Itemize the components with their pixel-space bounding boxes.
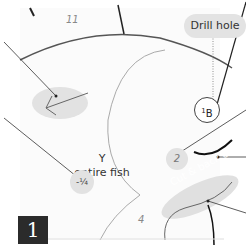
part-number-middle: 2 — [166, 148, 188, 170]
center-label-line1: Y — [62, 152, 142, 166]
step-number-badge: 1 — [18, 216, 48, 244]
part-number-top: 11 — [66, 14, 79, 25]
fraction-marker: -¼ — [70, 170, 94, 194]
hole-b-letter: B — [206, 108, 213, 119]
part-number-bottom: 4 — [138, 214, 144, 225]
hole-b-marker: 1B — [194, 97, 220, 123]
drill-hole-callout: Drill hole — [184, 14, 246, 38]
